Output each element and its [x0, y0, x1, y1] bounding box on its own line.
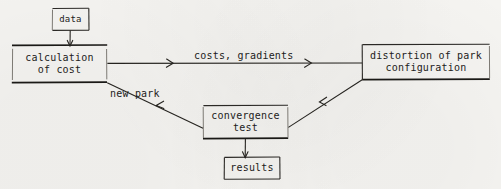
- arrow-convergence-to-results: [243, 139, 249, 158]
- arrow-data-to-calculation: [67, 31, 72, 46]
- node-convergence-test: convergence test: [203, 105, 288, 139]
- node-data: data: [52, 8, 89, 30]
- diagram-canvas: .stroke { stroke: #25231f; fill: none; s…: [0, 0, 501, 189]
- edge-label-costs-gradients: costs, gradients: [194, 50, 294, 61]
- edge-label-new-park: new park: [110, 88, 160, 99]
- node-calculation-of-cost: calculation of cost: [12, 45, 107, 83]
- node-distortion-of-park-configuration: distortion of park configuration: [362, 44, 490, 80]
- node-results: results: [224, 157, 280, 179]
- arrow-distortion-to-convergence: [288, 80, 362, 128]
